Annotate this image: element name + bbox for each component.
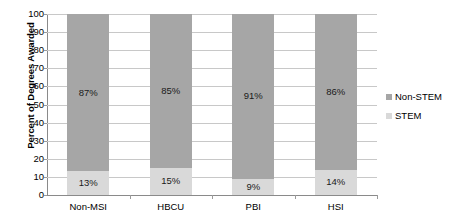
bar-segment-stem[interactable]: 15%	[150, 168, 192, 195]
bar-group[interactable]: 9%91%	[232, 14, 274, 195]
y-axis-tick-label: 70	[18, 63, 44, 73]
bar-value-label: 91%	[244, 91, 263, 101]
bar-segment-non-stem[interactable]: 91%	[232, 14, 274, 179]
bar-value-label: 85%	[161, 86, 180, 96]
y-axis-tick-label: 40	[18, 118, 44, 128]
bar-group[interactable]: 14%86%	[315, 14, 357, 195]
y-axis-tickmark	[44, 177, 47, 178]
y-axis-tick-labels: 1009080706050403020100	[18, 14, 44, 195]
legend-item[interactable]: Non-STEM	[386, 92, 442, 102]
x-axis-tickmark	[130, 195, 131, 199]
y-axis-tick-label: 90	[18, 27, 44, 37]
chart-legend: Non-STEMSTEM	[386, 92, 442, 130]
y-axis-tick-label: 50	[18, 100, 44, 110]
bar-value-label: 86%	[326, 87, 345, 97]
bar-value-label: 14%	[326, 177, 345, 187]
x-axis-category-label: HBCU	[131, 202, 211, 212]
y-axis-tickmark	[44, 123, 47, 124]
y-axis-tickmark	[44, 32, 47, 33]
y-axis-tick-label: 100	[18, 9, 44, 19]
y-axis-tick-label: 30	[18, 136, 44, 146]
y-axis-tick-label: 80	[18, 45, 44, 55]
bar-segment-non-stem[interactable]: 85%	[150, 14, 192, 168]
x-axis-tickmark	[212, 195, 213, 199]
y-axis-tick-label: 60	[18, 81, 44, 91]
legend-swatch-icon	[386, 94, 392, 100]
x-axis-tickmark	[295, 195, 296, 199]
bar-group[interactable]: 13%87%	[67, 14, 109, 195]
y-axis-tickmark	[44, 195, 47, 196]
y-axis-tickmark	[44, 68, 47, 69]
x-axis-tickmark	[377, 195, 378, 199]
bar-value-label: 87%	[79, 88, 98, 98]
bar-segment-non-stem[interactable]: 86%	[315, 14, 357, 170]
y-axis-tick-label: 20	[18, 154, 44, 164]
bar-value-label: 13%	[79, 178, 98, 188]
x-axis-category-label: HSI	[296, 202, 376, 212]
y-axis-tickmark	[44, 14, 47, 15]
legend-item[interactable]: STEM	[386, 111, 442, 121]
y-axis-tickmark	[44, 159, 47, 160]
y-axis-tickmark	[44, 86, 47, 87]
y-axis-tickmark	[44, 141, 47, 142]
y-axis-tick-label: 10	[18, 172, 44, 182]
bar-segment-stem[interactable]: 14%	[315, 170, 357, 195]
bar-segment-stem[interactable]: 9%	[232, 179, 274, 195]
legend-swatch-icon	[386, 113, 392, 119]
bar-segment-stem[interactable]: 13%	[67, 171, 109, 195]
bar-segment-non-stem[interactable]: 87%	[67, 14, 109, 171]
legend-label: Non-STEM	[395, 92, 442, 102]
y-axis-tickmark	[44, 50, 47, 51]
legend-label: STEM	[395, 111, 421, 121]
bar-value-label: 15%	[161, 176, 180, 186]
y-axis-tick-label: 0	[18, 190, 44, 200]
bar-value-label: 9%	[246, 182, 260, 192]
bar-group[interactable]: 15%85%	[150, 14, 192, 195]
plot-area: 13%87%15%85%9%91%14%86%	[47, 14, 377, 195]
y-axis-tickmark	[44, 105, 47, 106]
stacked-bar-chart: Percent of Degrees Awarded 1009080706050…	[0, 0, 450, 222]
x-axis-category-label: PBI	[213, 202, 293, 212]
bars-layer: 13%87%15%85%9%91%14%86%	[47, 14, 377, 195]
x-axis-category-label: Non-MSI	[48, 202, 128, 212]
